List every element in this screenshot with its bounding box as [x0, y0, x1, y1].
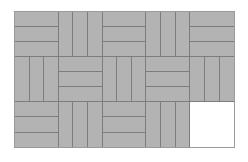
tile-plank: [146, 12, 161, 56]
tile-block-vertical: [103, 57, 147, 102]
tile-plank: [73, 12, 88, 56]
tile-block-horizontal: [146, 57, 190, 102]
tile-plank: [103, 12, 146, 27]
tile-plank: [73, 102, 88, 147]
tile-plank: [59, 72, 102, 87]
tile-plank: [103, 133, 146, 147]
tile-plank: [59, 12, 74, 56]
tile-plank: [103, 27, 146, 42]
tile-block-horizontal: [103, 12, 147, 57]
tile-plank: [88, 102, 102, 147]
tile-plank: [15, 27, 58, 42]
tile-plank: [15, 102, 58, 117]
tile-plank: [132, 57, 146, 101]
tile-plank: [161, 102, 176, 147]
tile-plank: [190, 27, 234, 42]
tile-block-vertical: [190, 57, 234, 102]
tile-plank: [146, 102, 161, 147]
tile-block-horizontal: [103, 102, 147, 147]
tile-block-horizontal: [59, 57, 103, 102]
tile-plank: [103, 57, 118, 101]
tile-plank: [176, 102, 190, 147]
tile-plank: [190, 42, 234, 56]
tile-block-vertical: [15, 57, 59, 102]
tile-plank: [146, 87, 189, 101]
tile-plank: [59, 57, 102, 72]
tile-plank: [103, 42, 146, 56]
tile-plank: [205, 57, 220, 101]
tile-plank: [190, 57, 205, 101]
tile-plank: [15, 117, 58, 132]
tile-block-horizontal: [190, 12, 234, 57]
tile-block-horizontal: [15, 102, 59, 147]
tile-plank: [176, 12, 190, 56]
tile-plank: [146, 72, 189, 87]
tile-plank: [88, 12, 102, 56]
tile-plank: [15, 42, 58, 56]
tile-plank: [220, 57, 234, 101]
tile-plank: [59, 102, 74, 147]
tile-plank: [15, 12, 58, 27]
tile-block-vertical: [59, 102, 103, 147]
tile-plank: [117, 57, 132, 101]
tile-plank: [30, 57, 45, 101]
tile-plank: [59, 87, 102, 101]
tile-block-horizontal: [15, 12, 59, 57]
tile-block-empty: [190, 102, 234, 147]
tile-plank: [161, 12, 176, 56]
tile-plank: [146, 57, 189, 72]
tile-plank: [15, 133, 58, 147]
parquet-pattern-figure: [0, 0, 248, 162]
tile-block-vertical: [59, 12, 103, 57]
tile-plank: [15, 57, 30, 101]
tile-block-vertical: [146, 12, 190, 57]
tile-plank: [190, 12, 234, 27]
tile-block-vertical: [146, 102, 190, 147]
tile-plank: [44, 57, 58, 101]
parquet-tile-grid: [14, 11, 235, 148]
tile-plank: [103, 102, 146, 117]
tile-plank: [103, 117, 146, 132]
